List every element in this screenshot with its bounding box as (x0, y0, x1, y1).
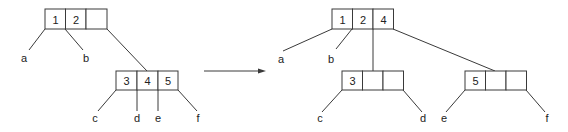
leaf-label: a (278, 53, 285, 65)
node-key: 5 (472, 75, 478, 87)
edge-right-f (526, 90, 545, 112)
leaf-label: f (196, 112, 200, 124)
leaf-label: e (155, 112, 161, 124)
leaf-label: d (134, 112, 140, 124)
after-tree: 1 2 4 3 5 a b c d e f (278, 9, 550, 124)
edge-root-a (29, 29, 45, 50)
edge-root-b (65, 29, 83, 50)
btree-split-diagram: 1 2 3 4 5 a b c d e f (0, 0, 568, 132)
transform-arrow-icon (204, 69, 266, 74)
before-child-node: 3 4 5 (116, 71, 178, 90)
edge-root-a (283, 29, 332, 51)
node-cell (86, 9, 107, 29)
node-key: 1 (52, 14, 58, 26)
node-key: 2 (360, 14, 366, 26)
after-left-child-node: 3 (342, 71, 404, 90)
node-key: 5 (165, 75, 171, 87)
before-tree: 1 2 3 4 5 a b c d e f (21, 9, 201, 124)
leaf-label: a (21, 52, 28, 64)
leaf-label: b (328, 53, 334, 65)
leaf-label: d (420, 112, 426, 124)
edge-root-b (336, 29, 352, 49)
before-root-node: 1 2 (45, 9, 107, 29)
leaf-label: f (545, 112, 549, 124)
node-key: 3 (123, 75, 129, 87)
node-key: 4 (380, 14, 386, 26)
node-key: 1 (339, 14, 345, 26)
edge-left-c (322, 90, 342, 112)
leaf-label: b (83, 52, 89, 64)
node-key: 2 (73, 14, 79, 26)
edge-right-e (446, 90, 465, 112)
node-key: 4 (144, 75, 150, 87)
node-key: 3 (349, 75, 355, 87)
after-root-node: 1 2 4 (332, 9, 394, 29)
after-right-child-node: 5 (465, 71, 527, 90)
edge-root-child (107, 29, 147, 71)
edge-child-c (98, 90, 116, 111)
node-cell (383, 71, 404, 90)
leaf-label: e (441, 112, 447, 124)
leaf-label: c (92, 112, 98, 124)
edge-child-f (178, 90, 197, 111)
node-cell (363, 71, 384, 90)
node-cell (506, 71, 527, 90)
edge-left-d (403, 90, 422, 112)
edge-root-right-child (393, 29, 495, 71)
leaf-label: c (317, 112, 323, 124)
node-cell (486, 71, 507, 90)
